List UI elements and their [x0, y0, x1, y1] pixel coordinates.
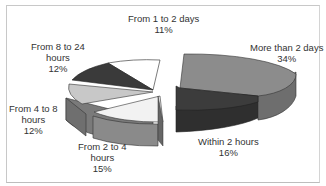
- label-4-to-8-hours: From 4 to 8 hours 12%: [9, 103, 58, 136]
- label-value: 12%: [31, 63, 85, 74]
- label-more-than-2-days: More than 2 days 34%: [250, 42, 323, 64]
- label-text: More than 2 days: [250, 42, 323, 53]
- label-value: 16%: [198, 147, 259, 158]
- label-text: hours: [9, 114, 58, 125]
- label-8-to-24-hours: From 8 to 24 hours 12%: [31, 41, 85, 74]
- label-text: From 1 to 2 days: [128, 13, 199, 24]
- label-1-to-2-days: From 1 to 2 days 11%: [128, 13, 199, 35]
- label-within-2-hours: Within 2 hours 16%: [198, 136, 259, 158]
- label-value: 12%: [9, 125, 58, 136]
- label-text: From 8 to 24: [31, 41, 85, 52]
- label-text: hours: [31, 52, 85, 63]
- label-2-to-4-hours: From 2 to 4 hours 15%: [78, 141, 127, 174]
- label-text: From 2 to 4: [78, 141, 127, 152]
- label-value: 34%: [250, 53, 323, 64]
- label-text: Within 2 hours: [198, 136, 259, 147]
- label-text: From 4 to 8: [9, 103, 58, 114]
- label-value: 11%: [128, 24, 199, 35]
- label-text: hours: [78, 152, 127, 163]
- label-value: 15%: [78, 163, 127, 174]
